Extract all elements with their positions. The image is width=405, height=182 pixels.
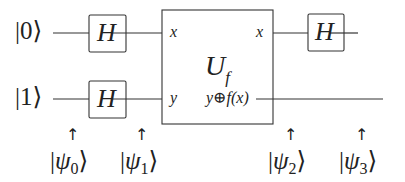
state-psi-2: |ψ2⟩ (268, 148, 306, 177)
psi-symbol: ψ (125, 147, 141, 174)
uf-output-x: x (256, 24, 263, 40)
uf-output-y-xor-fx: y⊕f(x) (206, 90, 249, 106)
arrow-up-icon: ↑ (284, 127, 297, 143)
input-ket-1: |1⟩ (15, 84, 42, 109)
uf-gate-label: Uf (205, 52, 230, 86)
uf-input-x: x (170, 24, 177, 40)
arrow-up-icon: ↑ (355, 127, 368, 143)
state-psi-1: |ψ1⟩ (120, 148, 158, 177)
psi-subscript: 3 (360, 160, 368, 177)
psi-subscript: 1 (141, 160, 149, 177)
arrow-up-icon: ↑ (135, 127, 148, 143)
psi-symbol: ψ (55, 147, 71, 174)
state-psi-3: |ψ3⟩ (339, 148, 377, 177)
h-gate-bottom-1-label: H (97, 86, 116, 112)
uf-input-y: y (170, 90, 177, 106)
psi-symbol: ψ (273, 147, 289, 174)
psi-subscript: 0 (71, 160, 79, 177)
uf-gate-subscript: f (225, 68, 230, 87)
h-gate-top-1-label: H (97, 20, 116, 46)
state-psi-0: |ψ0⟩ (50, 148, 88, 177)
input-ket-0: |0⟩ (15, 18, 42, 43)
uf-gate-main: U (205, 50, 225, 81)
psi-symbol: ψ (344, 147, 360, 174)
psi-subscript: 2 (289, 160, 297, 177)
h-gate-top-2-label: H (315, 19, 334, 45)
arrow-up-icon: ↑ (66, 127, 79, 143)
